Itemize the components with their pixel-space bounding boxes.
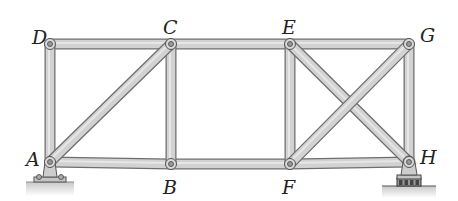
pin-g xyxy=(404,39,415,50)
member-dc xyxy=(49,43,171,44)
member-hg xyxy=(408,43,409,162)
member-fe xyxy=(289,43,290,164)
truss-pins xyxy=(45,39,415,170)
member-ad xyxy=(49,43,50,162)
pin-f xyxy=(285,159,296,170)
truss-diagram xyxy=(0,0,458,201)
joint-label-g: G xyxy=(420,26,435,45)
member-bc xyxy=(170,43,171,164)
joint-label-d: D xyxy=(32,28,47,47)
joint-label-b: B xyxy=(163,178,177,197)
member-fh xyxy=(289,161,409,164)
joint-label-e: E xyxy=(282,18,296,37)
joint-label-a: A xyxy=(26,150,40,169)
pin-c xyxy=(166,39,177,50)
joint-label-h: H xyxy=(420,148,437,167)
pin-b xyxy=(166,159,177,170)
member-bf xyxy=(170,163,290,164)
member-ac xyxy=(49,43,171,162)
member-ab xyxy=(49,161,171,164)
truss-members xyxy=(49,43,409,164)
member-ce xyxy=(170,43,290,44)
joint-label-f: F xyxy=(282,178,295,197)
joint-label-c: C xyxy=(163,18,178,37)
pin-e xyxy=(285,39,296,50)
member-eg xyxy=(289,43,409,44)
pin-a xyxy=(45,157,56,168)
pin-h xyxy=(404,157,415,168)
